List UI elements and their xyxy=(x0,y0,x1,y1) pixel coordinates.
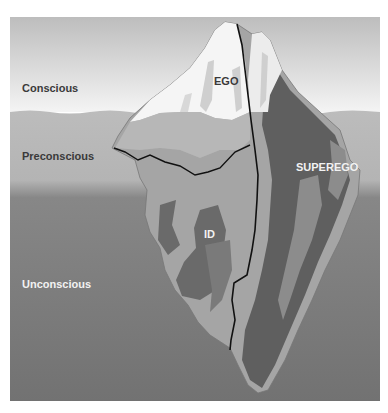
level-label-preconscious: Preconscious xyxy=(22,150,94,162)
structure-label-superego: SUPEREGO xyxy=(296,161,358,173)
level-label-conscious: Conscious xyxy=(22,82,78,94)
structure-label-ego: EGO xyxy=(214,75,238,87)
iceberg-diagram xyxy=(0,0,388,413)
level-label-unconscious: Unconscious xyxy=(22,278,91,290)
structure-label-id: ID xyxy=(204,228,215,240)
